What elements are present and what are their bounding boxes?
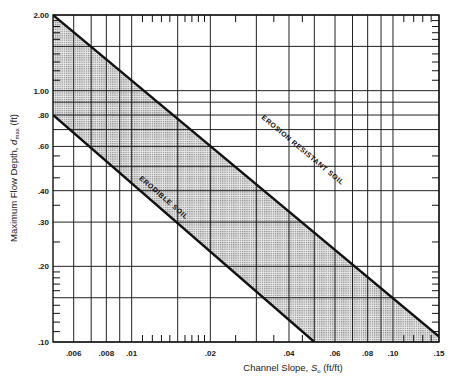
x-axis-title: Channel Slope, So (ft/ft)	[243, 362, 342, 374]
x-tick-label: .04	[283, 349, 295, 358]
y-tick-label: .60	[38, 142, 50, 151]
y-tick-label: 1.00	[33, 87, 49, 96]
x-tick-label: .15	[433, 349, 445, 358]
y-tick-label: .30	[38, 218, 50, 227]
y-tick-label: .10	[38, 338, 50, 347]
y-tick-labels: 2.001.00.80.60.40.30.20.10	[33, 11, 49, 347]
x-tick-label: .008	[99, 349, 115, 358]
y-axis-title: Maximum Flow Depth, dmax (ft)	[8, 114, 20, 242]
y-tick-label: .20	[38, 262, 50, 271]
y-tick-label: .40	[38, 187, 50, 196]
x-tick-label: .10	[387, 349, 399, 358]
erosion-resistant-label: EROSION RESISTANT SOIL	[260, 114, 345, 187]
y-tick-label: 2.00	[33, 11, 49, 20]
x-tick-labels: .006.008.01.02.04.06.08.10.15	[66, 349, 445, 358]
x-tick-label: .08	[362, 349, 374, 358]
chart: 2.001.00.80.60.40.30.20.10 .006.008.01.0…	[0, 0, 449, 383]
x-tick-label: .006	[66, 349, 82, 358]
y-tick-label: .80	[38, 111, 50, 120]
x-tick-label: .01	[126, 349, 138, 358]
x-tick-label: .02	[205, 349, 217, 358]
x-tick-label: .06	[329, 349, 341, 358]
